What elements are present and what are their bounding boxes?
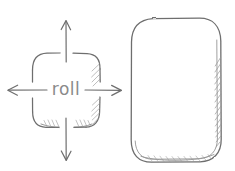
right-shape-double-stroke (135, 40, 217, 160)
sketch-diagram-canvas: roll (0, 0, 235, 171)
right-shape-outline (131, 18, 221, 162)
left-shape-label: roll (52, 79, 80, 99)
right-shape-right-hatching (215, 58, 221, 147)
arrow-up (61, 21, 70, 62)
arrow-left (8, 85, 47, 95)
right-rounded-rectangle-group (131, 18, 221, 162)
arrow-down (61, 118, 71, 160)
arrow-right (85, 85, 121, 95)
left-shape-bottom-hatching (44, 120, 91, 127)
